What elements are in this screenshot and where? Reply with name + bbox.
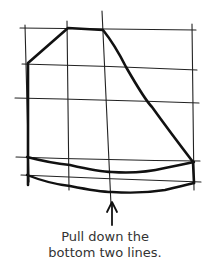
caption-line-2: bottom two lines. [0, 245, 210, 261]
grid-lines [15, 11, 201, 205]
arrow-up-icon [107, 202, 117, 225]
caption: Pull down the bottom two lines. [0, 229, 210, 261]
caption-line-1: Pull down the [0, 229, 210, 245]
sketch-diagram [0, 0, 210, 265]
